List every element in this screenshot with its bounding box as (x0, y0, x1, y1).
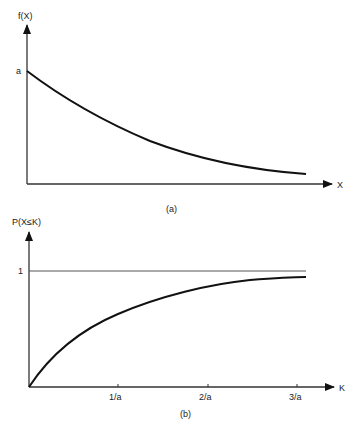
panel-b: P(X≤K) K 1 1/a 2/a 3/a (b) (12, 217, 345, 419)
panel-a: f(X) X a (a) (16, 11, 343, 214)
ylabel-b: P(X≤K) (12, 217, 41, 227)
xlabel-a: X (337, 180, 343, 190)
xtick-label-2: 2/a (199, 392, 212, 402)
xtick-label-3: 3/a (289, 392, 302, 402)
ytick-b: 1 (18, 266, 23, 276)
xtick-label-1: 1/a (109, 392, 122, 402)
caption-b: (b) (180, 409, 191, 419)
figure: f(X) X a (a) P(X≤K) K 1 1/a 2/a 3/a (b) (0, 0, 359, 421)
curve-cdf (29, 277, 306, 387)
curve-density (27, 71, 306, 174)
xlabel-b: K (339, 383, 345, 393)
ylabel-a: f(X) (18, 11, 33, 21)
ytick-a: a (16, 66, 21, 76)
caption-a: (a) (166, 204, 177, 214)
